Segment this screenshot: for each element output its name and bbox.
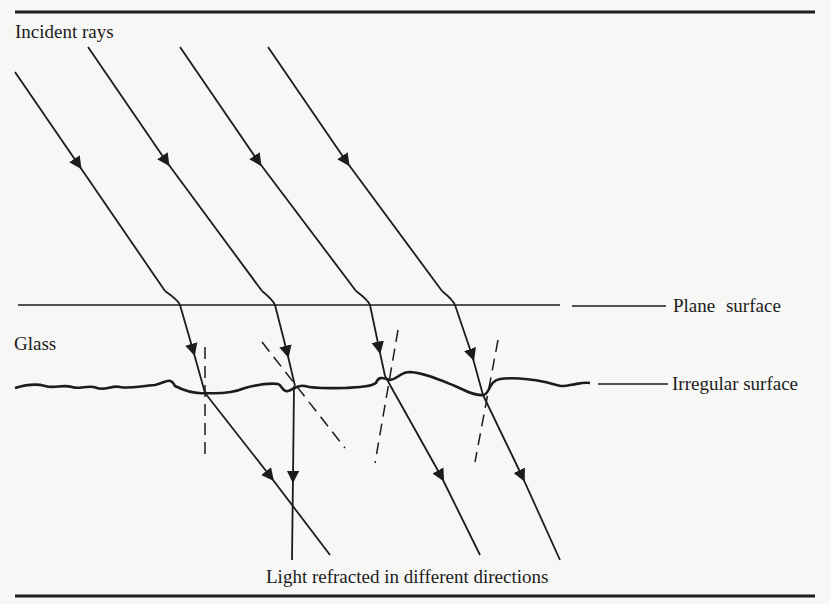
normals (205, 330, 498, 463)
normal-4 (475, 340, 498, 462)
ray-1 (15, 72, 330, 555)
glass-label: Glass (14, 334, 56, 353)
normal-3 (375, 330, 398, 463)
ray-3 (180, 47, 480, 555)
refraction-diagram: Incident rays Glass Plane surface Irregu… (0, 0, 830, 604)
ray-2 (88, 47, 295, 560)
irregular-surface-label: Irregular surface (672, 374, 798, 393)
refracted-caption: Light refracted in different directions (266, 567, 548, 586)
plane-surface (18, 305, 666, 306)
plane-surface-label: Plane surface (673, 296, 781, 315)
ray-4 (268, 47, 560, 560)
normal-2 (262, 342, 345, 448)
irregular-surface (15, 372, 668, 395)
incident-rays-label: Incident rays (15, 22, 114, 41)
